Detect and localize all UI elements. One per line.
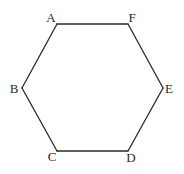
edge-ba [22,24,57,88]
hexagon-diagram: A F E D C B [0,0,184,174]
vertex-label-d: D [126,150,135,165]
vertex-label-e: E [165,81,173,96]
vertex-label-f: F [128,10,135,25]
hexagon-edges [22,24,163,151]
edge-ed [128,88,163,151]
vertex-labels: A F E D C B [10,10,173,165]
vertex-label-c: C [48,149,57,164]
edge-fe [128,24,163,88]
vertex-label-b: B [10,81,19,96]
vertex-label-a: A [46,10,56,25]
edge-cb [22,88,57,151]
